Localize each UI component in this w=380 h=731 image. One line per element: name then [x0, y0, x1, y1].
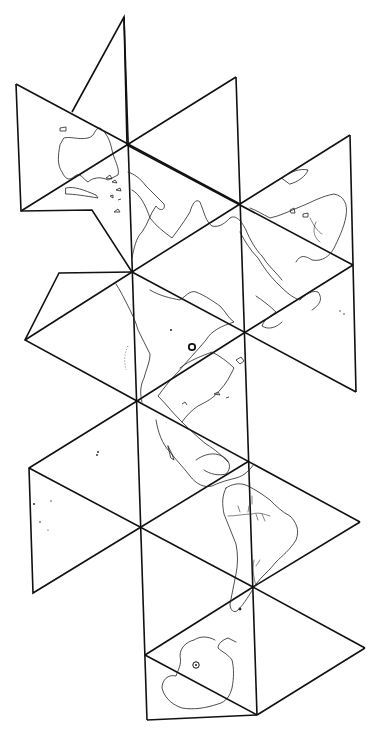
edge: [253, 522, 360, 587]
new-guinea-coast: [66, 187, 98, 198]
europe-coast: [250, 194, 347, 262]
edge: [240, 135, 350, 204]
island-dot: [33, 503, 35, 505]
edge: [127, 145, 353, 265]
scandinavia-coast: [282, 169, 308, 184]
tasmania: [60, 127, 66, 131]
africa-rivers: [310, 218, 322, 242]
canada-arctic: [180, 352, 234, 422]
edge-top-flap: [72, 17, 127, 145]
edge: [147, 715, 257, 720]
island-dot: [96, 454, 98, 456]
edge: [145, 587, 253, 655]
south-america-coast: [223, 484, 298, 612]
island-dot: [343, 313, 344, 314]
aleutian-islands: [125, 346, 128, 370]
edge: [145, 655, 257, 715]
island-dot: [339, 310, 340, 311]
edge: [141, 461, 249, 527]
gulf-of-mexico: [196, 454, 229, 475]
central-america-coast: [156, 420, 254, 487]
island-dot: [97, 451, 99, 453]
north-pole-marker: [189, 344, 195, 350]
edge: [257, 648, 365, 715]
coastlines: [58, 127, 346, 709]
edge-vertical-left: [124, 17, 147, 720]
edge: [29, 468, 253, 587]
island-dot: [239, 608, 242, 611]
island-dot: [39, 521, 41, 523]
dymaxion-map: [0, 0, 380, 731]
british-isles: [290, 208, 308, 217]
africa-coast: [240, 232, 320, 310]
edge-vertical-mid: [236, 77, 257, 715]
pole-markers: [189, 344, 199, 668]
edge: [132, 204, 240, 272]
amazon-river: [228, 496, 270, 521]
asia-coast: [132, 190, 282, 280]
south-pole-center: [195, 664, 197, 666]
net-edges: [16, 17, 365, 720]
parana-river: [253, 560, 260, 586]
north-america-coast: [150, 290, 234, 462]
edge: [25, 272, 132, 340]
island-dot: [47, 529, 48, 530]
island-dot: [50, 500, 51, 501]
southeast-asia-coast: [128, 172, 164, 258]
edge: [253, 587, 365, 648]
arctic-islands: [182, 357, 244, 405]
island-dot: [170, 329, 172, 331]
islands: [106, 175, 121, 212]
edge: [132, 272, 356, 392]
